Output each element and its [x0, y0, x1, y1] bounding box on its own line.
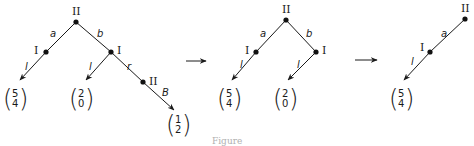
edge-l — [404, 52, 430, 80]
svg-text:(: ( — [217, 85, 226, 113]
payoff-vector: ( 1 2 ) — [166, 111, 191, 139]
edge-l-left — [232, 52, 256, 80]
svg-text:): ) — [405, 85, 414, 113]
game-tree-reduction-diagram: II I I II a b l l r B ( 5 4 ) ( 2 0 ) ( … — [0, 0, 474, 146]
player-label-right: I — [322, 44, 326, 57]
svg-text:4: 4 — [398, 98, 404, 109]
svg-text:): ) — [182, 111, 191, 139]
payoff-vector: ( 5 4 ) — [389, 85, 414, 113]
player-label-right-right: II — [149, 75, 158, 88]
node-left — [43, 49, 48, 54]
edge-B — [143, 82, 174, 110]
svg-text:2: 2 — [175, 124, 181, 135]
svg-text:(: ( — [273, 85, 282, 113]
payoff-vector: ( 5 4 ) — [3, 85, 28, 113]
node-root — [283, 17, 288, 22]
svg-text:): ) — [19, 85, 28, 113]
svg-text:(: ( — [166, 111, 175, 139]
svg-text:(: ( — [389, 85, 398, 113]
player-label-root: II — [282, 3, 291, 16]
node-left — [253, 49, 258, 54]
edge-label-a: a — [260, 28, 266, 39]
edge-label-l-right: l — [89, 61, 92, 72]
svg-text:0: 0 — [282, 98, 288, 109]
node-root — [462, 16, 467, 21]
tree-2: II I I a b l l ( 5 4 ) ( 2 0 ) — [217, 3, 326, 113]
player-label-left: I — [245, 44, 249, 57]
player-label-left: I — [34, 44, 38, 57]
edge-a — [430, 19, 465, 52]
edge-label-b: b — [97, 28, 103, 39]
tree-1: II I I II a b l l r B ( 5 4 ) ( 2 0 ) ( … — [3, 5, 191, 139]
svg-text:): ) — [289, 85, 298, 113]
edge-label-B: B — [162, 87, 169, 98]
svg-text:): ) — [85, 85, 94, 113]
edge-label-a: a — [50, 28, 56, 39]
player-label-left: I — [420, 41, 424, 54]
node-right-right — [140, 79, 145, 84]
edge-label-b: b — [306, 28, 312, 39]
tree-3: II I a l ( 5 4 ) — [389, 2, 470, 113]
figure-caption: Figure — [212, 136, 242, 146]
edge-l-left — [20, 52, 46, 80]
payoff-vector: ( 2 0 ) — [273, 85, 298, 113]
payoff-vector: ( 2 0 ) — [69, 85, 94, 113]
svg-text:(: ( — [3, 85, 12, 113]
svg-text:4: 4 — [12, 98, 18, 109]
svg-text:): ) — [233, 85, 242, 113]
svg-text:0: 0 — [78, 98, 84, 109]
edge-label-l: l — [411, 56, 414, 67]
node-right — [313, 49, 318, 54]
player-label-right: I — [117, 44, 121, 57]
node-right — [108, 49, 113, 54]
node-root — [73, 19, 78, 24]
edge-l-right — [288, 52, 316, 80]
edge-label-l-left: l — [25, 61, 28, 72]
payoff-vector: ( 5 4 ) — [217, 85, 242, 113]
edge-label-a: a — [441, 28, 447, 39]
edge-label-l-right: l — [297, 59, 300, 70]
node-left — [427, 49, 432, 54]
edge-b — [76, 22, 111, 52]
player-label-root: II — [72, 5, 81, 18]
svg-text:(: ( — [69, 85, 78, 113]
player-label-root: II — [461, 2, 470, 15]
edge-label-l-left: l — [240, 59, 243, 70]
svg-text:4: 4 — [226, 98, 232, 109]
